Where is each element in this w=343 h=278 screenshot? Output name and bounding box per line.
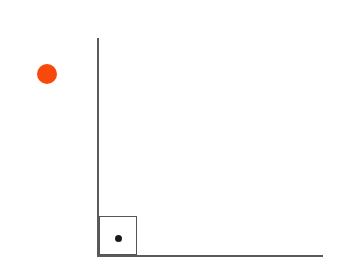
- diagram-canvas: [0, 0, 343, 278]
- center-of-mass-dot: [115, 235, 122, 242]
- orange-ball: [37, 64, 57, 84]
- horizontal-ground-line: [97, 255, 323, 257]
